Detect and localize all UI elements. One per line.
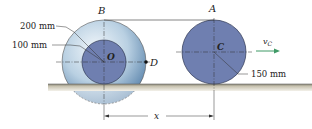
label-x: x bbox=[154, 111, 159, 121]
label-outer-radius: 200 mm bbox=[20, 21, 55, 31]
label-D: D bbox=[149, 57, 158, 68]
label-C: C bbox=[217, 42, 225, 52]
ground bbox=[48, 84, 312, 91]
label-velocity: vC bbox=[263, 37, 273, 47]
rolling-wheels-diagram: B A O C D 200 mm 100 mm 150 mm vC x bbox=[0, 0, 312, 129]
label-wheel-radius: 150 mm bbox=[251, 69, 286, 79]
point-D-dot bbox=[144, 60, 148, 64]
diagram-canvas: B A O C D 200 mm 100 mm 150 mm vC x bbox=[0, 0, 312, 129]
label-B: B bbox=[97, 5, 105, 16]
label-A: A bbox=[208, 3, 216, 14]
label-O: O bbox=[107, 52, 115, 62]
velocity-arrow bbox=[256, 49, 280, 54]
label-inner-radius: 100 mm bbox=[12, 40, 47, 50]
